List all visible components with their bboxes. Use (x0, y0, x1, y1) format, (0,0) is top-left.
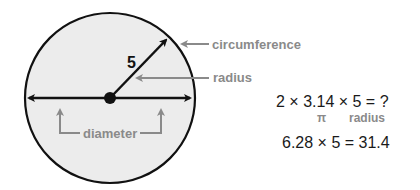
equation-line-2: 6.28 × 5 = 31.4 (282, 134, 390, 151)
pi-label: π (317, 111, 326, 125)
circumference-label: circumference (212, 37, 301, 52)
center-point (104, 92, 116, 104)
equation-radius-label: radius (349, 111, 385, 125)
diameter-label: diameter (83, 126, 137, 141)
radius-label: radius (213, 70, 252, 85)
equation-line-1: 2 × 3.14 × 5 = ? (276, 93, 389, 110)
radius-value: 5 (127, 54, 136, 71)
circle-diagram: 5 circumference radius diameter 2 × 3.14… (0, 0, 420, 190)
